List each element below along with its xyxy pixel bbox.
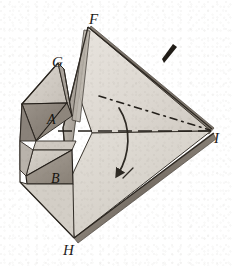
large-polyhedron bbox=[63, 26, 216, 243]
face-label-B: B bbox=[51, 172, 60, 186]
upper-front-face bbox=[79, 27, 211, 133]
vertex-label-G: G bbox=[52, 55, 63, 70]
face-mid-band bbox=[33, 141, 76, 150]
polyhedron-illustration bbox=[0, 0, 232, 266]
lower-front-face bbox=[67, 131, 211, 238]
face-label-A: A bbox=[47, 113, 56, 127]
index-tick-mark bbox=[162, 44, 177, 63]
vertex-label-I: I bbox=[214, 131, 219, 146]
figure-plate: F G I H A B bbox=[0, 0, 232, 266]
vertex-label-F: F bbox=[89, 12, 98, 27]
vertex-label-H: H bbox=[63, 243, 74, 258]
small-polyhedron bbox=[20, 63, 76, 238]
